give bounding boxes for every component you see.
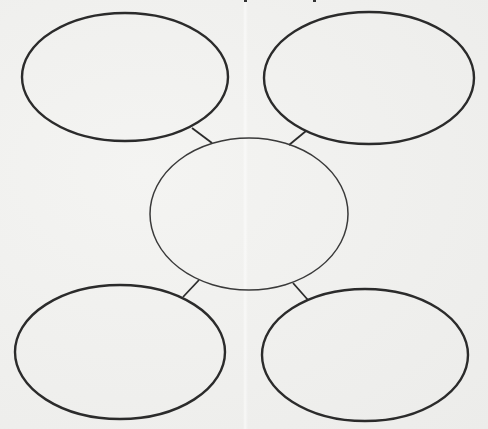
top-left-bubble	[22, 13, 228, 141]
center-to-top-left-connector	[192, 128, 212, 143]
top-right-bubble	[264, 12, 474, 144]
center-to-bottom-right-connector	[293, 283, 308, 300]
connector-lines	[183, 128, 308, 300]
center-to-top-right-connector	[289, 131, 306, 145]
bottom-left-bubble	[15, 285, 225, 419]
center-bubble	[150, 138, 348, 290]
bubble-nodes	[15, 12, 474, 421]
bottom-right-bubble	[262, 289, 468, 421]
bubble-map-diagram	[0, 0, 488, 429]
worksheet-page	[0, 0, 488, 429]
center-to-bottom-left-connector	[183, 280, 199, 297]
